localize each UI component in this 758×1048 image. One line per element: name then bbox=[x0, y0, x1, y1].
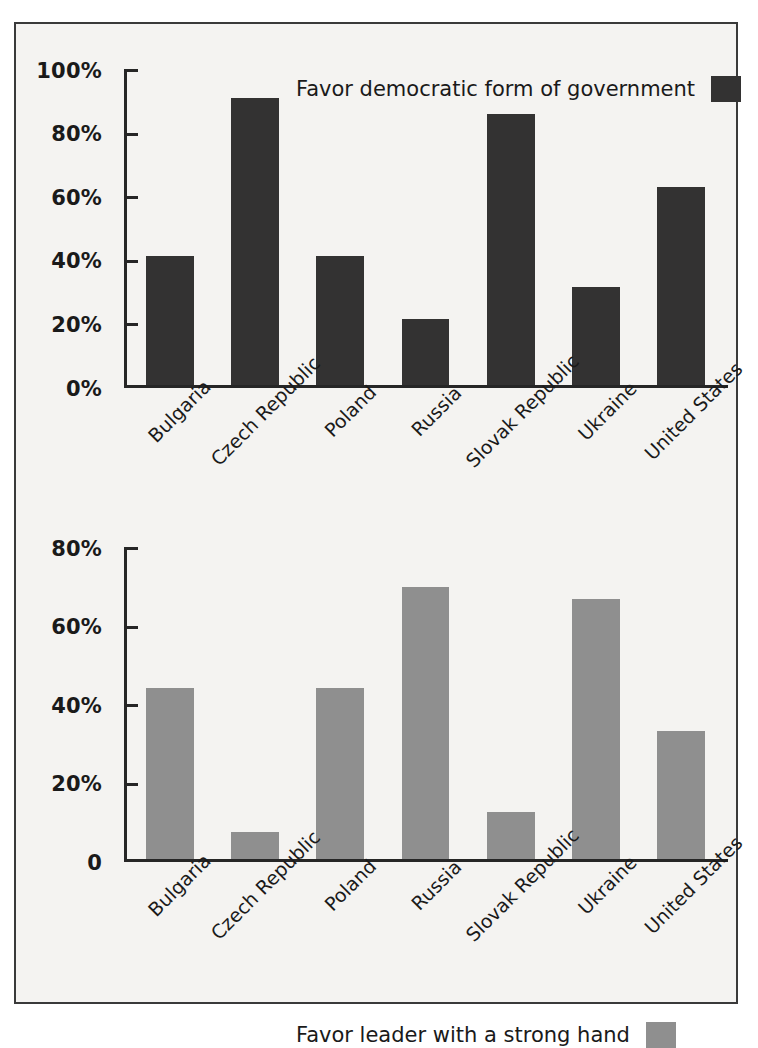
x-axis-line-bottom bbox=[124, 859, 728, 862]
bar-slot bbox=[212, 70, 297, 385]
category-slot: Slovak Republic bbox=[470, 864, 556, 984]
bar bbox=[231, 98, 279, 385]
figure-frame: Favor democratic form of government 100%… bbox=[14, 22, 738, 1004]
category-slot: Bulgaria bbox=[127, 390, 213, 510]
plot-area-top: 100% 80% 60% 40% 20% 0% bbox=[124, 70, 724, 388]
y-tick-label-60-bottom: 60% bbox=[51, 615, 102, 639]
x-axis-label: Poland bbox=[320, 855, 380, 915]
plot-area-bottom: 80% 60% 40% 20% 0 bbox=[124, 548, 724, 862]
bar-slot bbox=[127, 548, 212, 859]
bar bbox=[487, 812, 535, 859]
bar-group-bottom bbox=[127, 548, 724, 859]
y-tick-label-40-bottom: 40% bbox=[51, 694, 102, 718]
bar-slot bbox=[639, 70, 724, 385]
category-slot: Ukraine bbox=[556, 390, 642, 510]
category-slot: Slovak Republic bbox=[470, 390, 556, 510]
y-tick-label-60: 60% bbox=[51, 186, 102, 210]
y-tick-label-100: 100% bbox=[36, 59, 102, 83]
x-axis-labels-top: BulgariaCzech RepublicPolandRussiaSlovak… bbox=[127, 390, 727, 510]
chart-panel-top: Favor democratic form of government 100%… bbox=[16, 30, 740, 500]
bar bbox=[402, 587, 450, 859]
bar-slot bbox=[298, 70, 383, 385]
bar bbox=[231, 832, 279, 859]
y-tick-label-0: 0% bbox=[66, 377, 102, 401]
bar-slot bbox=[127, 70, 212, 385]
bar-slot bbox=[553, 70, 638, 385]
bar-slot bbox=[212, 548, 297, 859]
bar-slot bbox=[468, 70, 553, 385]
y-tick-label-20-bottom: 20% bbox=[51, 772, 102, 796]
category-slot: Czech Republic bbox=[213, 864, 299, 984]
x-axis-label: Russia bbox=[407, 855, 466, 914]
bar-slot bbox=[298, 548, 383, 859]
y-tick-label-80-bottom: 80% bbox=[51, 537, 102, 561]
category-slot: Russia bbox=[384, 864, 470, 984]
bar-slot bbox=[383, 548, 468, 859]
x-axis-label: Russia bbox=[407, 381, 466, 440]
y-tick-label-0-bottom: 0 bbox=[87, 851, 102, 875]
bar bbox=[657, 731, 705, 859]
bar-slot bbox=[468, 548, 553, 859]
bar-slot bbox=[639, 548, 724, 859]
bar bbox=[657, 187, 705, 385]
y-tick-label-20: 20% bbox=[51, 313, 102, 337]
bar-slot bbox=[383, 70, 468, 385]
bar bbox=[146, 256, 194, 385]
bar bbox=[572, 287, 620, 385]
x-axis-label: Poland bbox=[320, 381, 380, 441]
legend-label-strong-hand: Favor leader with a strong hand bbox=[296, 1023, 630, 1047]
bar bbox=[487, 114, 535, 385]
y-tick-label-40: 40% bbox=[51, 249, 102, 273]
bar bbox=[402, 319, 450, 385]
chart-panel-bottom: Favor leader with a strong hand 80% 60% … bbox=[16, 506, 740, 1000]
legend-bottom: Favor leader with a strong hand bbox=[296, 1022, 676, 1048]
category-slot: Poland bbox=[298, 864, 384, 984]
category-slot: United States bbox=[641, 390, 727, 510]
category-slot: Russia bbox=[384, 390, 470, 510]
category-slot: Bulgaria bbox=[127, 864, 213, 984]
bar-group-top bbox=[127, 70, 724, 385]
bar bbox=[146, 688, 194, 859]
bar bbox=[572, 599, 620, 859]
category-slot: Ukraine bbox=[556, 864, 642, 984]
bar bbox=[316, 688, 364, 859]
category-slot: Czech Republic bbox=[213, 390, 299, 510]
bar bbox=[316, 256, 364, 385]
category-slot: Poland bbox=[298, 390, 384, 510]
category-slot: United States bbox=[641, 864, 727, 984]
x-axis-line-top bbox=[124, 385, 728, 388]
bar-slot bbox=[553, 548, 638, 859]
x-axis-labels-bottom: BulgariaCzech RepublicPolandRussiaSlovak… bbox=[127, 864, 727, 984]
y-tick-label-80: 80% bbox=[51, 122, 102, 146]
legend-swatch-gray bbox=[646, 1022, 676, 1048]
